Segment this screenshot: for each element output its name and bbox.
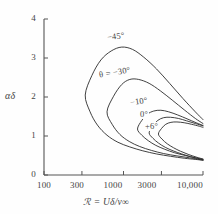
- y-tick-label-0: 0: [22, 169, 36, 179]
- x-tick-label-1000: 1000: [98, 180, 128, 190]
- y-tick-label-3: 3: [22, 52, 36, 62]
- y-tick-label-1: 1: [22, 130, 36, 140]
- axis-lines: [44, 19, 203, 175]
- figure-container: 4 3 2 1 0 αδ 100 300 1000 3000 10,000 ℛ …: [0, 0, 218, 214]
- curve-label-plus6: +6°: [144, 122, 159, 131]
- y-tick-label-4: 4: [22, 13, 36, 23]
- x-axis-title: ℛ = Uδ/ν∞: [83, 196, 129, 207]
- curve-label-minus45: −45°: [106, 31, 126, 42]
- x-tick-label-10000: 10,000: [171, 180, 209, 190]
- y-axis-ticks: [44, 19, 48, 175]
- x-tick-label-100: 100: [31, 180, 57, 190]
- y-axis-title: αδ: [5, 90, 15, 101]
- x-tick-label-3000: 3000: [132, 180, 162, 190]
- x-tick-label-300: 300: [64, 180, 90, 190]
- y-tick-label-2: 2: [22, 91, 36, 101]
- x-axis-ticks: [44, 171, 203, 175]
- curve-label-zero: 0°: [139, 110, 149, 119]
